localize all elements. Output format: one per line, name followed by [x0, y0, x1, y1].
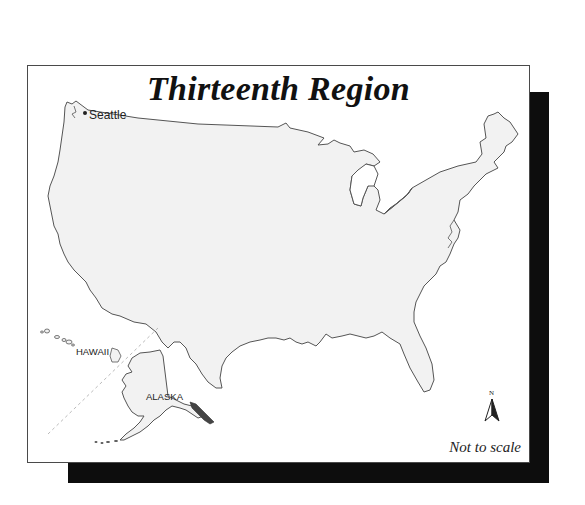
north-letter: N [489, 389, 494, 397]
seattle-marker [83, 111, 87, 115]
alaska-label: ALASKA [146, 391, 183, 402]
scale-note: Not to scale [449, 439, 521, 456]
north-arrow-icon [483, 399, 503, 423]
aleutian-islands [95, 440, 119, 444]
hawaii-label: HAWAII [76, 346, 109, 357]
north-arrow: N [483, 389, 503, 425]
us-map [28, 66, 531, 464]
map-frame: Thirteenth Region [27, 65, 530, 463]
contiguous-us-outline [48, 101, 518, 392]
seattle-label: Seattle [89, 108, 126, 122]
